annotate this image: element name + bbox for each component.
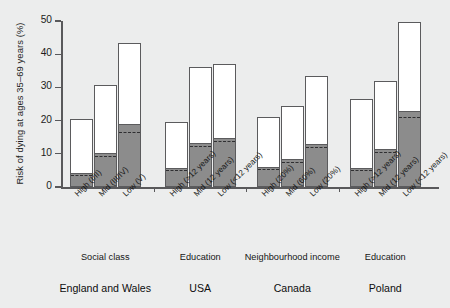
group-measure-label: Education — [150, 252, 250, 263]
group-measure-label: Education — [335, 252, 435, 263]
group-measure-label: Neighbourhood income — [242, 252, 342, 263]
bar-dashed-marker — [214, 141, 235, 142]
bar-dashed-marker — [351, 170, 372, 171]
x-axis-separator — [154, 187, 155, 192]
bar-dashed-marker — [166, 170, 187, 171]
y-tick-label: 20 — [30, 114, 52, 125]
bar-dashed-marker — [190, 146, 211, 147]
group-measure-label: Social class — [55, 252, 155, 263]
bar-dashed-marker — [95, 156, 116, 157]
y-tick-mark — [55, 186, 61, 187]
country-label: Poland — [325, 282, 445, 294]
chart-container: Risk of dying at ages 35–69 years (%) 01… — [0, 0, 450, 308]
bar-dashed-marker — [306, 147, 327, 148]
y-tick-label: 10 — [30, 147, 52, 158]
y-tick-label: 40 — [30, 47, 52, 58]
y-tick-mark — [55, 87, 61, 88]
bar — [118, 43, 141, 187]
bar-dashed-marker — [119, 132, 140, 133]
bar-dashed-marker — [399, 117, 420, 118]
x-axis-separator — [246, 187, 247, 192]
bar-dashed-marker — [282, 162, 303, 163]
y-tick-label: 30 — [30, 80, 52, 91]
y-axis-title: Risk of dying at ages 35–69 years (%) — [14, 9, 25, 199]
y-tick-mark — [55, 20, 61, 21]
y-tick-mark — [55, 54, 61, 55]
y-tick-mark — [55, 120, 61, 121]
y-tick-label: 0 — [30, 180, 52, 191]
bar — [350, 99, 373, 187]
x-axis-separator — [339, 187, 340, 192]
y-tick-label: 50 — [30, 14, 52, 25]
y-tick-mark — [55, 153, 61, 154]
bar-dashed-marker — [258, 169, 279, 170]
